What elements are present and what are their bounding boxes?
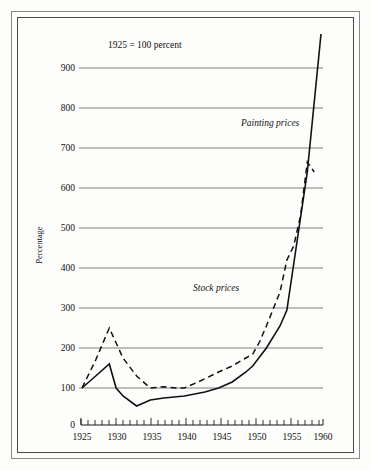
xtick-label-1950: 1950 (248, 432, 267, 442)
ytick-label-400: 400 (61, 263, 76, 273)
chart-note-1925-baseline: 1925 = 100 percent (108, 40, 182, 50)
ytick-label-0: 0 (70, 420, 75, 430)
xtick-label-1935: 1935 (143, 432, 162, 442)
series-annotation-stock-prices: Stock prices (193, 283, 239, 293)
series-line-painting-prices (82, 34, 321, 406)
series-line-stock-prices (82, 162, 314, 388)
ytick-label-500: 500 (61, 223, 76, 233)
xtick-label-1940: 1940 (178, 432, 197, 442)
ytick-label-200: 200 (61, 343, 76, 353)
xtick-label-1955: 1955 (283, 432, 302, 442)
chart-plot-area: 1925 = 100 percent Percentage 900 800 70… (0, 0, 371, 470)
series-annotation-painting-prices: Painting prices (240, 118, 300, 128)
ytick-label-800: 800 (61, 103, 76, 113)
xtick-label-1945: 1945 (213, 432, 232, 442)
xtick-label-1960: 1960 (314, 432, 333, 442)
xtick-label-1925: 1925 (73, 432, 92, 442)
x-axis-tick-labels: 1925 1930 1935 1940 1945 1950 1955 1960 (73, 432, 333, 442)
y-axis-tick-labels: 900 800 700 600 500 400 300 200 100 0 (61, 63, 76, 430)
y-axis-title: Percentage (34, 226, 44, 264)
gridlines-group (79, 68, 323, 388)
x-axis-tickmarks (81, 418, 319, 425)
xtick-label-1930: 1930 (108, 432, 127, 442)
ytick-label-900: 900 (61, 63, 76, 73)
ytick-label-700: 700 (61, 143, 76, 153)
ytick-label-600: 600 (61, 183, 76, 193)
ytick-label-300: 300 (61, 303, 76, 313)
figure-container: 1925 = 100 percent Percentage 900 800 70… (0, 0, 371, 470)
ytick-label-100: 100 (61, 383, 76, 393)
line-chart-svg: 1925 = 100 percent Percentage 900 800 70… (0, 0, 371, 470)
